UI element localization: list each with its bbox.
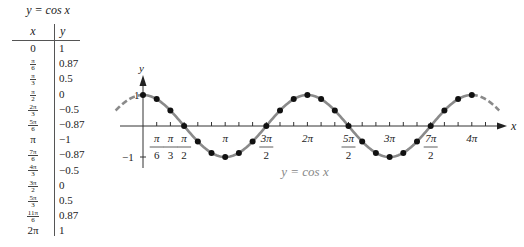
y-tick-label-neg1: −1	[122, 151, 134, 163]
x-tick-label-numerator: 7π	[425, 132, 437, 144]
x-tick-label: 4π	[466, 132, 478, 144]
data-point	[441, 108, 447, 114]
graph-caption: y = cos x	[270, 164, 340, 180]
data-point	[414, 139, 420, 145]
curve-dashed-right	[472, 95, 499, 111]
data-point	[250, 139, 256, 145]
x-axis-arrow-icon	[497, 123, 507, 130]
data-point	[428, 123, 434, 129]
y-axis-arrow-icon	[140, 75, 147, 86]
data-point	[359, 139, 365, 145]
data-point	[373, 150, 379, 156]
data-point	[236, 150, 242, 156]
data-point	[455, 96, 461, 102]
data-point	[387, 154, 393, 160]
y-axis-label: y	[138, 62, 144, 74]
data-point	[222, 154, 228, 160]
x-tick-label-numerator: π	[181, 132, 187, 144]
data-point	[332, 108, 338, 114]
x-axis-label: x	[510, 119, 517, 133]
x-tick-label-numerator: 3π	[260, 132, 273, 144]
x-tick-label: 3π	[383, 132, 396, 144]
data-point	[318, 96, 324, 102]
data-point	[263, 123, 269, 129]
data-point	[346, 123, 352, 129]
data-point	[400, 150, 406, 156]
data-point	[469, 92, 475, 98]
x-tick-label-numerator: 5π	[343, 132, 355, 144]
data-point	[277, 108, 283, 114]
data-point	[140, 92, 146, 98]
x-tick-label: π	[222, 132, 228, 144]
x-tick-label: 2π	[302, 132, 314, 144]
data-point	[154, 96, 160, 102]
x-tick-label-denominator: 2	[181, 149, 187, 161]
data-point	[181, 123, 187, 129]
x-tick-label-numerator: π	[154, 132, 160, 144]
data-point	[304, 92, 310, 98]
x-tick-label-denominator: 6	[154, 149, 160, 161]
data-point	[195, 139, 201, 145]
x-tick-label-denominator: 2	[264, 149, 270, 161]
data-point	[209, 150, 215, 156]
x-tick-label-denominator: 3	[168, 149, 174, 161]
data-point	[167, 108, 173, 114]
graph-caption-text: y = cos x	[281, 164, 328, 179]
x-tick-label-denominator: 2	[428, 149, 434, 161]
cosine-graph: xy1−1π6π3π2π3π22π5π23π7π24π	[0, 0, 524, 247]
x-tick-label-numerator: π	[168, 132, 174, 144]
data-point	[291, 96, 297, 102]
x-tick-label-denominator: 2	[346, 149, 352, 161]
